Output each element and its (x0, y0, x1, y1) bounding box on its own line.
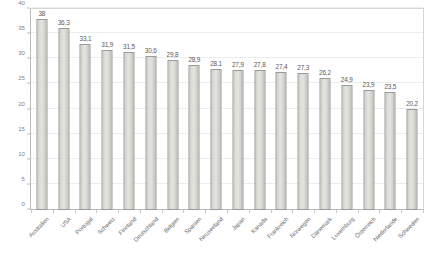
y-axis-tick-mark (27, 33, 30, 34)
bar[interactable] (123, 52, 134, 210)
x-axis-category-label: Australien (28, 216, 50, 238)
y-axis-tick-label: 35 (18, 25, 25, 31)
y-axis-tick-mark (27, 183, 30, 184)
bar-value-label: 30,6 (145, 47, 157, 54)
bar[interactable] (363, 90, 374, 210)
bar-value-label: 31,5 (123, 43, 135, 50)
x-axis-tick-mark (205, 210, 206, 213)
x-axis-tick-mark (292, 210, 293, 213)
bar[interactable] (385, 92, 396, 210)
bars-layer: 3836,333,131,931,530,629,828,928,127,927… (31, 9, 423, 210)
bar-slot: 23,5 (379, 9, 401, 210)
x-axis-category-label: Spanien (183, 216, 202, 235)
x-axis-tick-mark (249, 210, 250, 213)
bar[interactable] (36, 19, 47, 210)
bar-slot: 27,8 (249, 9, 271, 210)
x-axis-tick-mark (314, 210, 315, 213)
bar-slot: 27,4 (271, 9, 293, 210)
x-axis-tick-mark (53, 210, 54, 213)
y-axis-tick-label: 40 (18, 0, 25, 6)
x-axis-category-label: Luxemburg (330, 216, 355, 241)
bar-value-label: 31,9 (101, 41, 113, 48)
bar-slot: 26,2 (314, 9, 336, 210)
x-axis-tick-mark (162, 210, 163, 213)
y-axis-tick-label: 30 (18, 50, 25, 56)
bar-slot: 23,9 (358, 9, 380, 210)
x-axis-tick-mark (358, 210, 359, 213)
y-axis-tick-mark (27, 133, 30, 134)
x-axis-category-label: Portugal (74, 216, 93, 235)
x-axis-tick-mark (96, 210, 97, 213)
bar-slot: 28,1 (205, 9, 227, 210)
y-axis-tick-mark (27, 58, 30, 59)
bar[interactable] (341, 85, 352, 210)
bar[interactable] (407, 109, 418, 211)
bar-value-label: 33,1 (80, 35, 92, 42)
bar-slot: 33,1 (75, 9, 97, 210)
bar[interactable] (80, 44, 91, 210)
y-axis-tick-mark (27, 158, 30, 159)
x-axis-tick-mark (75, 210, 76, 213)
x-axis-category-label: USA (59, 216, 72, 229)
bar-chart: 0510152025303540 3836,333,131,931,530,62… (0, 0, 432, 270)
bar-value-label: 27,3 (297, 64, 309, 71)
x-axis-category-label: Japan (231, 216, 246, 231)
y-axis-tick-label: 20 (18, 101, 25, 107)
bar-value-label: 27,9 (232, 61, 244, 68)
y-axis-tick-mark (27, 108, 30, 109)
bar-slot: 29,8 (162, 9, 184, 210)
x-axis: AustralienUSAPortugalSchweizFinnlandDeut… (31, 210, 423, 270)
y-axis-tick-mark (27, 83, 30, 84)
x-axis-tick-mark (423, 210, 424, 213)
bar[interactable] (298, 73, 309, 210)
bar-value-label: 27,8 (254, 61, 266, 68)
bar-slot: 24,9 (336, 9, 358, 210)
bar[interactable] (145, 56, 156, 210)
bar-value-label: 38 (38, 10, 45, 17)
x-axis-tick-mark (271, 210, 272, 213)
x-axis-category-label: Schweiz (96, 216, 116, 236)
y-axis-tick-label: 25 (18, 75, 25, 81)
bar-value-label: 28,9 (188, 56, 200, 63)
bar-slot: 38 (31, 9, 53, 210)
bar[interactable] (167, 60, 178, 210)
bar-value-label: 36,3 (58, 19, 70, 26)
bar-value-label: 23,5 (384, 83, 396, 90)
y-axis-tick-mark (27, 209, 30, 210)
bar-value-label: 23,9 (363, 81, 375, 88)
bar[interactable] (254, 70, 265, 210)
bar-slot: 30,6 (140, 9, 162, 210)
x-axis-tick-mark (336, 210, 337, 213)
x-axis-tick-mark (227, 210, 228, 213)
bar[interactable] (58, 28, 69, 210)
bar-slot: 20,2 (401, 9, 423, 210)
x-axis-tick-mark (31, 210, 32, 213)
x-axis-category-label: Belgien (163, 216, 181, 234)
x-axis-tick-mark (140, 210, 141, 213)
bar-value-label: 26,2 (319, 69, 331, 76)
bar-value-label: 28,1 (210, 60, 222, 67)
bar-slot: 36,3 (53, 9, 75, 210)
bar-slot: 28,9 (183, 9, 205, 210)
bar-value-label: 20,2 (406, 100, 418, 107)
x-axis-category-label: Schweden (397, 216, 421, 240)
y-axis-tick-label: 10 (18, 151, 25, 157)
bar[interactable] (211, 69, 222, 210)
bar-slot: 27,3 (292, 9, 314, 210)
x-axis-tick-mark (118, 210, 119, 213)
x-axis-tick-mark (183, 210, 184, 213)
bar-slot: 31,9 (96, 9, 118, 210)
bar[interactable] (102, 50, 113, 210)
y-axis-tick-label: 15 (18, 126, 25, 132)
y-axis-tick-label: 5 (22, 176, 25, 182)
bar[interactable] (276, 72, 287, 210)
x-axis-category-label: Kanada (249, 216, 267, 234)
x-axis-category-label: Finnland (117, 216, 137, 236)
x-axis-category-label: Frankreich (266, 216, 290, 240)
bar[interactable] (189, 65, 200, 210)
bar[interactable] (232, 70, 243, 210)
bar[interactable] (319, 78, 330, 210)
y-axis-tick-mark (27, 8, 30, 9)
bar-value-label: 27,4 (276, 63, 288, 70)
y-axis-tick-label: 0 (22, 201, 25, 207)
